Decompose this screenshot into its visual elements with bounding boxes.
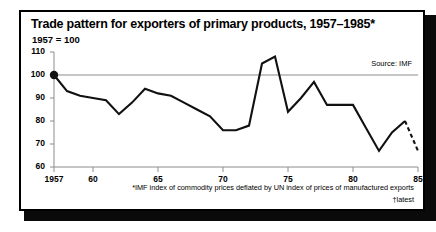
y-axis-tick-label: 60	[23, 161, 45, 171]
y-axis-tick-label: 90	[23, 92, 45, 102]
footnote-latest: †latest	[393, 195, 415, 204]
chart-frame: Trade pattern for exporters of primary p…	[19, 10, 425, 211]
y-axis-tick-label: 100	[23, 69, 45, 79]
base-year-marker	[50, 71, 58, 79]
data-line-projected	[405, 121, 418, 151]
x-axis-tick-label: 85	[413, 174, 422, 184]
x-axis-tick-label: 60	[88, 174, 97, 184]
y-axis-tick-label: 110	[23, 46, 45, 56]
y-axis-tick-label: 80	[23, 115, 45, 125]
chart-figure: Trade pattern for exporters of primary p…	[0, 0, 436, 232]
x-axis-tick-label: 1957	[45, 174, 64, 184]
footnote-methodology: *IMF index of commodity prices deflated …	[132, 183, 414, 192]
data-line-main	[54, 57, 405, 151]
y-axis-tick-label: 70	[23, 138, 45, 148]
